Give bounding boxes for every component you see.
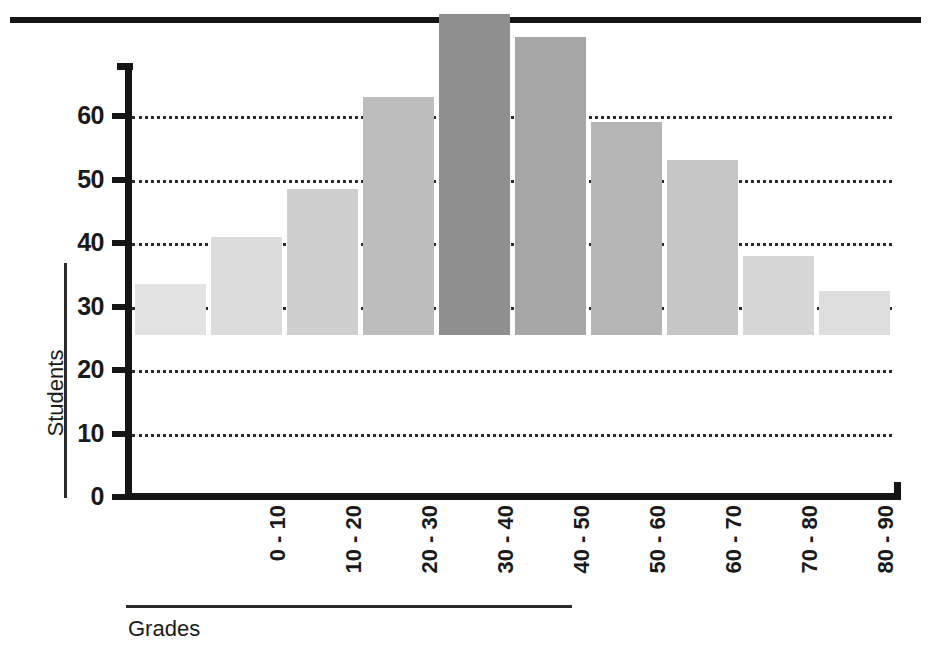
bar-80-90 [743, 256, 814, 335]
chart-page: 0102030405060 Students 0 - 1010 - 2020 -… [0, 0, 931, 659]
x-tick-label-80-90: 80 - 90 [873, 505, 903, 615]
bar-60-70 [591, 122, 662, 335]
bar-20-30 [287, 189, 358, 335]
x-axis-title: Grades [128, 616, 200, 642]
x-tick-label-70-80: 70 - 80 [797, 505, 827, 615]
x-tick-label-40-50: 40 - 50 [569, 505, 599, 615]
x-tick-label-20-30: 20 - 30 [417, 505, 447, 615]
bar-0-10 [135, 284, 206, 335]
y-tick-mark-10 [112, 431, 128, 437]
y-axis-title: Students [43, 313, 69, 473]
y-tick-label-wrap-40: 40 [12, 228, 104, 256]
y-tick-mark-30 [112, 304, 128, 310]
y-tick-label: 60 [58, 101, 104, 130]
bar-group [0, 0, 931, 497]
y-tick-mark-40 [112, 240, 128, 246]
x-tick-label-group: 0 - 1010 - 2020 - 3030 - 4040 - 5050 - 6… [0, 505, 931, 600]
y-tick-label-wrap-50: 50 [12, 165, 104, 193]
bar-50-60 [515, 37, 586, 335]
x-tick-label-60-70: 60 - 70 [721, 505, 751, 615]
x-tick-label-10-20: 10 - 20 [341, 505, 371, 615]
bar-30-40 [363, 97, 434, 335]
x-tick-label-50-60: 50 - 60 [645, 505, 675, 615]
y-tick-mark-50 [112, 177, 128, 183]
x-tick-label-0-10: 0 - 10 [265, 505, 295, 615]
x-axis-line [125, 493, 901, 500]
x-axis-title-rule [126, 605, 572, 608]
bar-10-20 [211, 237, 282, 335]
y-tick-mark-0 [112, 494, 128, 500]
x-axis-end-cap [894, 482, 901, 500]
y-axis-top-cap [117, 63, 133, 70]
y-tick-mark-60 [112, 113, 128, 119]
bar-40-50 [439, 14, 510, 335]
bar-90-100 [819, 291, 890, 335]
y-tick-label: 40 [58, 228, 104, 257]
y-tick-mark-20 [112, 367, 128, 373]
y-tick-label: 50 [58, 165, 104, 194]
bar-70-80 [667, 160, 738, 335]
x-tick-label-30-40: 30 - 40 [493, 505, 523, 615]
y-tick-label-wrap-60: 60 [12, 101, 104, 129]
